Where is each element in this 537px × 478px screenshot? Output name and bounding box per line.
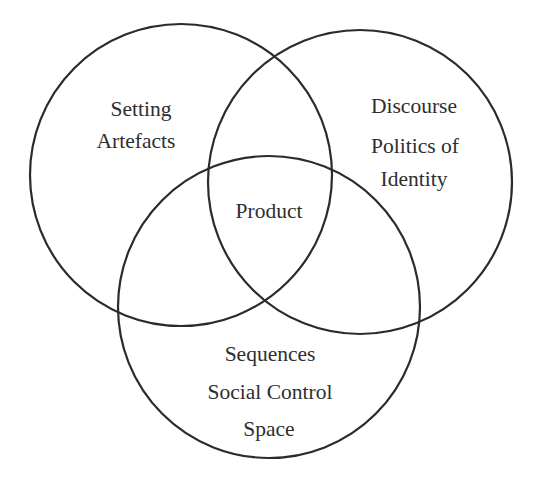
label-sequences: Sequences bbox=[225, 342, 316, 366]
circle-discourse-politics bbox=[208, 30, 512, 334]
label-social-control: Social Control bbox=[208, 380, 333, 404]
label-identity: Identity bbox=[381, 167, 448, 191]
label-artefacts: Artefacts bbox=[97, 129, 176, 153]
label-space: Space bbox=[243, 417, 294, 441]
venn-diagram: Setting Artefacts Discourse Politics of … bbox=[0, 0, 537, 478]
label-discourse: Discourse bbox=[371, 94, 457, 118]
label-product: Product bbox=[236, 199, 303, 223]
circle-setting-artefacts bbox=[30, 24, 332, 326]
label-politics-of: Politics of bbox=[371, 134, 460, 158]
label-setting: Setting bbox=[111, 97, 172, 121]
